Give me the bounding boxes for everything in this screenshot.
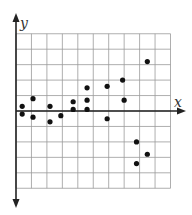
data-point (20, 111, 25, 116)
x-axis-label: x (174, 94, 182, 110)
data-point (30, 96, 35, 101)
data-point (20, 104, 25, 109)
data-point (134, 161, 139, 166)
data-point (145, 152, 150, 157)
data-point (84, 107, 89, 112)
axes: x y (13, 13, 187, 208)
data-point (122, 98, 127, 103)
data-point (84, 85, 89, 90)
data-point (47, 119, 52, 124)
data-point (105, 116, 110, 121)
y-axis-arrow-up-icon (13, 13, 20, 22)
data-point (120, 78, 125, 83)
y-axis-label: y (19, 15, 29, 31)
data-point (71, 107, 76, 112)
data-point (47, 104, 52, 109)
data-point (134, 139, 139, 144)
data-points (20, 59, 150, 166)
data-point (30, 115, 35, 120)
data-point (84, 98, 89, 103)
data-point (145, 59, 150, 64)
data-point (105, 84, 110, 89)
data-point (58, 113, 63, 118)
y-axis-arrow-down-icon (13, 199, 20, 208)
scatter-plot: x y (0, 0, 192, 215)
data-point (71, 99, 76, 104)
